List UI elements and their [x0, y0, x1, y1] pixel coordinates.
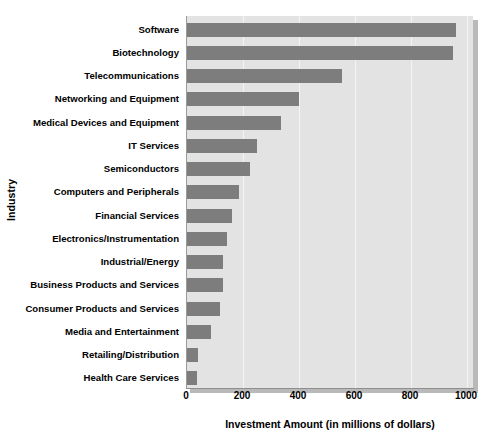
plot-area — [186, 16, 473, 388]
bar — [187, 139, 257, 153]
bar — [187, 46, 453, 60]
y-axis-tick-label: Business Products and Services — [30, 278, 179, 292]
y-axis-tick-label: Medical Devices and Equipment — [33, 116, 179, 130]
plot-shadow-right — [473, 20, 478, 392]
bar — [187, 209, 232, 223]
x-axis-tick-label: 800 — [402, 390, 419, 401]
bar — [187, 325, 211, 339]
gridline-600 — [355, 16, 356, 388]
y-axis-tick-label: Software — [138, 23, 179, 37]
bar — [187, 278, 223, 292]
x-axis-title: Investment Amount (in millions of dollar… — [186, 418, 474, 430]
x-axis-tick-label: 400 — [290, 390, 307, 401]
bar — [187, 371, 197, 385]
bar — [187, 232, 227, 246]
y-axis-tick-label: Retailing/Distribution — [82, 348, 179, 362]
y-axis-tick-label: Telecommunications — [84, 69, 179, 83]
x-axis-tick-label: 0 — [183, 390, 189, 401]
bar — [187, 116, 281, 130]
x-axis-line — [186, 388, 474, 389]
bar — [187, 162, 250, 176]
y-axis-tick-label: Media and Entertainment — [65, 325, 179, 339]
plot-area-wrapper — [186, 16, 473, 388]
y-axis-tick-label: Networking and Equipment — [55, 92, 179, 106]
bar — [187, 255, 223, 269]
gridline-1000 — [467, 16, 468, 388]
gridline-800 — [411, 16, 412, 388]
y-axis-tick-label: IT Services — [128, 139, 179, 153]
x-axis-tick-label: 200 — [234, 390, 251, 401]
y-axis-title-text: Industry — [5, 179, 17, 221]
bar-chart-figure: Industry SoftwareBiotechnologyTelecommun… — [0, 0, 488, 439]
bar — [187, 348, 198, 362]
x-axis-tick-label: 1000 — [455, 390, 477, 401]
bar — [187, 23, 456, 37]
y-axis-tick-label: Financial Services — [95, 209, 179, 223]
y-axis-tick-label: Industrial/Energy — [101, 255, 179, 269]
bar — [187, 302, 220, 316]
y-axis-tick-label: Consumer Products and Services — [25, 302, 179, 316]
y-axis-tick-label: Semiconductors — [104, 162, 179, 176]
y-axis-tick-label: Biotechnology — [112, 46, 179, 60]
x-axis-tick-labels: 02004006008001000 — [0, 390, 488, 406]
y-axis-tick-label: Electronics/Instrumentation — [52, 232, 179, 246]
y-axis-tick-labels: SoftwareBiotechnologyTelecommunicationsN… — [18, 18, 183, 386]
bar — [187, 185, 239, 199]
x-axis-tick-label: 600 — [346, 390, 363, 401]
bar — [187, 92, 299, 106]
y-axis-tick-label: Computers and Peripherals — [54, 185, 179, 199]
y-axis-tick-label: Health Care Services — [84, 371, 179, 385]
bar — [187, 69, 342, 83]
